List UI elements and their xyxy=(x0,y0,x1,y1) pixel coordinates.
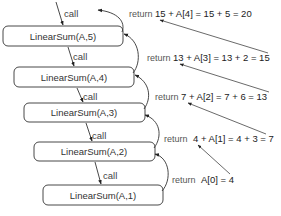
return-label-4: return 4 + A[1] = 4 + 3 = 7 xyxy=(164,133,274,144)
call-arrow-1 xyxy=(56,2,63,25)
recursion-trace-diagram: call call call call call LinearSum(A,5) … xyxy=(0,0,281,216)
call-arrow-5 xyxy=(95,162,101,184)
svg-text:return: return xyxy=(155,92,179,102)
value-arrow-1 xyxy=(160,20,268,53)
svg-text:return: return xyxy=(147,53,171,63)
call-label-1: call xyxy=(64,8,78,19)
return-label-2: return 13 + A[3] = 13 + 2 = 15 xyxy=(147,52,270,63)
svg-text:13 + A[3] = 13 + 2 = 15: 13 + A[3] = 13 + 2 = 15 xyxy=(173,52,270,63)
svg-text:LinearSum(A,2): LinearSum(A,2) xyxy=(61,146,128,157)
svg-text:return: return xyxy=(164,134,188,144)
call-box-2: LinearSum(A,4) xyxy=(14,67,134,87)
call-box-1: LinearSum(A,5) xyxy=(3,26,123,46)
return-label-1: return 15 + A[4] = 15 + 5 = 20 xyxy=(129,8,252,19)
return-label-3: return 7 + A[2] = 7 + 6 = 13 xyxy=(155,91,267,102)
value-arrow-2 xyxy=(180,64,269,92)
call-box-4: LinearSum(A,2) xyxy=(34,142,155,161)
call-label-4: call xyxy=(92,130,106,141)
svg-text:A[0] = 4: A[0] = 4 xyxy=(201,174,234,185)
svg-text:LinearSum(A,3): LinearSum(A,3) xyxy=(51,107,118,118)
svg-text:return: return xyxy=(172,175,196,185)
call-label-3: call xyxy=(83,91,97,102)
call-box-3: LinearSum(A,3) xyxy=(24,103,145,122)
return-label-5: return A[0] = 4 xyxy=(172,174,234,185)
svg-text:7 + A[2] = 7 + 6 = 13: 7 + A[2] = 7 + 6 = 13 xyxy=(181,91,267,102)
svg-text:LinearSum(A,4): LinearSum(A,4) xyxy=(41,72,108,83)
call-box-5: LinearSum(A,1) xyxy=(43,185,163,205)
call-label-2: call xyxy=(73,51,87,62)
svg-text:4 + A[1] = 4 + 3 = 7: 4 + A[1] = 4 + 3 = 7 xyxy=(193,133,274,144)
svg-text:LinearSum(A,1): LinearSum(A,1) xyxy=(70,190,137,201)
svg-text:return: return xyxy=(129,9,153,19)
call-label-5: call xyxy=(103,170,117,181)
value-arrow-3 xyxy=(188,103,266,134)
svg-text:LinearSum(A,5): LinearSum(A,5) xyxy=(30,31,97,42)
value-arrow-4 xyxy=(198,145,230,174)
svg-text:15 + A[4] = 15 + 5 = 20: 15 + A[4] = 15 + 5 = 20 xyxy=(155,8,252,19)
